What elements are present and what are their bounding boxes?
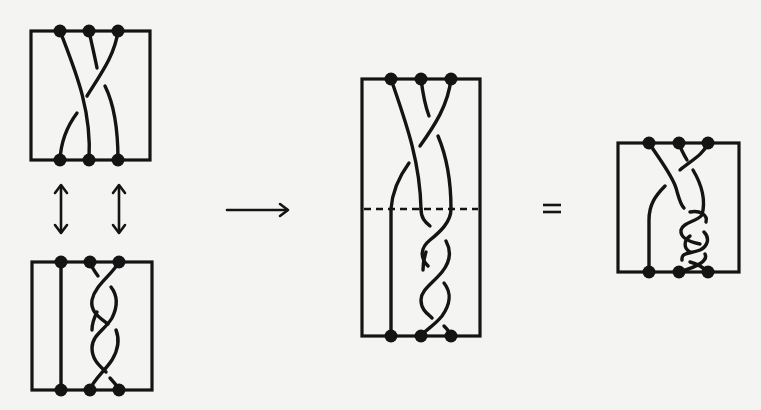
endpoint-dot <box>54 154 67 167</box>
endpoint-dot <box>415 330 428 343</box>
strand <box>649 186 665 272</box>
endpoint-dot <box>673 137 686 150</box>
braid-frame <box>618 143 739 272</box>
braid-composite <box>362 73 480 343</box>
double-arrow-left <box>55 185 67 233</box>
strand <box>421 209 430 226</box>
endpoint-dot <box>84 384 97 397</box>
endpoint-dot <box>55 256 68 269</box>
endpoint-dot <box>643 137 656 150</box>
strand <box>685 236 690 252</box>
endpoint-dot <box>112 154 125 167</box>
endpoint-dot <box>385 330 398 343</box>
endpoint-dot <box>83 25 96 38</box>
endpoint-dot <box>83 154 96 167</box>
endpoint-dot <box>445 73 458 86</box>
strand <box>422 209 451 266</box>
endpoint-dot <box>55 384 68 397</box>
composition-arrow <box>227 204 288 216</box>
braid-result <box>618 137 739 279</box>
endpoint-dot <box>112 25 125 38</box>
endpoint-dot <box>702 266 715 279</box>
equals-sign <box>543 205 561 212</box>
endpoint-dot <box>113 384 126 397</box>
strand <box>60 113 77 160</box>
braid-figure <box>0 0 761 410</box>
endpoint-dot <box>113 256 126 269</box>
endpoint-dot <box>643 266 656 279</box>
endpoint-dot <box>385 73 398 86</box>
double-arrow-right <box>113 185 125 233</box>
braid-bottom-left <box>32 256 152 397</box>
braid-top-left <box>31 25 150 167</box>
endpoint-dot <box>415 73 428 86</box>
endpoint-dot <box>702 137 715 150</box>
strand <box>391 163 409 209</box>
endpoint-dot <box>673 266 686 279</box>
strand <box>420 79 451 146</box>
endpoint-dot <box>84 256 97 269</box>
endpoint-dot <box>445 330 458 343</box>
strand <box>438 136 451 209</box>
endpoint-dot <box>54 25 67 38</box>
strand <box>92 312 97 330</box>
strand <box>105 86 118 160</box>
